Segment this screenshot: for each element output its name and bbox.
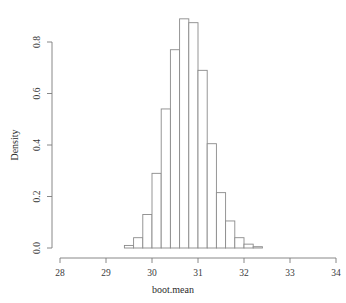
y-axis-title: Density bbox=[9, 129, 20, 160]
histogram-bar bbox=[207, 144, 216, 248]
histogram-bar bbox=[170, 50, 179, 248]
histogram-svg: 28293031323334 0.00.20.40.60.8 boot.mean… bbox=[0, 0, 346, 303]
histogram-bar bbox=[134, 238, 143, 248]
histogram-plot: 28293031323334 0.00.20.40.60.8 boot.mean… bbox=[0, 0, 346, 303]
x-axis-tick-label: 29 bbox=[101, 268, 111, 278]
histogram-bar bbox=[124, 245, 133, 248]
x-axis-tick-label: 32 bbox=[239, 268, 249, 278]
x-axis-title: boot.mean bbox=[152, 284, 194, 295]
x-axis-tick-label: 28 bbox=[55, 268, 65, 278]
y-axis-tick-label: 0.8 bbox=[32, 36, 42, 48]
histogram-bar bbox=[189, 23, 198, 248]
histogram-bar bbox=[161, 109, 170, 248]
x-axis-tick-label: 33 bbox=[285, 268, 295, 278]
histogram-bar bbox=[244, 244, 253, 248]
histogram-bar bbox=[152, 173, 161, 248]
x-axis-tick-label: 34 bbox=[331, 268, 341, 278]
histogram-bar bbox=[180, 19, 189, 248]
histogram-bar bbox=[143, 215, 152, 248]
y-axis-tick-label: 0.4 bbox=[32, 139, 42, 151]
y-axis-tick-label: 0.6 bbox=[32, 87, 42, 99]
histogram-bar bbox=[198, 70, 207, 248]
histogram-bar bbox=[226, 221, 235, 248]
x-axis-tick-label: 31 bbox=[193, 268, 203, 278]
histogram-bar bbox=[253, 247, 262, 248]
histogram-bar bbox=[235, 238, 244, 248]
y-axis-tick-label: 0.2 bbox=[32, 190, 42, 202]
x-axis-tick-label: 30 bbox=[147, 268, 157, 278]
histogram-bar bbox=[216, 193, 225, 248]
y-axis-tick-label: 0.0 bbox=[32, 242, 42, 254]
